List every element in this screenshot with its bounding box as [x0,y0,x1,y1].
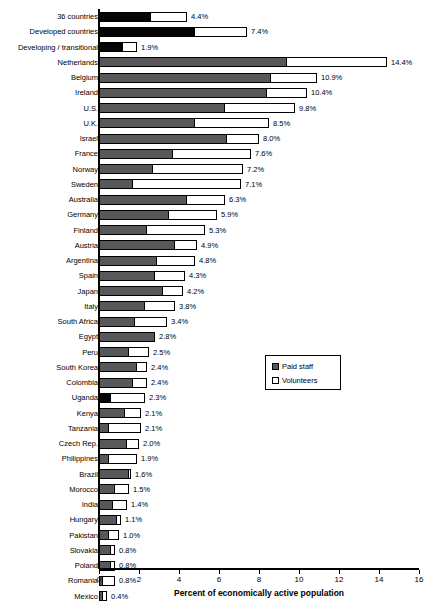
bar-segment-volunteers [110,393,145,403]
row-value-label: 8.5% [273,116,290,131]
bar-segment-paid-staff [99,210,169,220]
bar-segment-paid-staff [99,500,113,510]
row-bar-group [99,271,185,281]
x-tick-label: 8 [244,575,274,585]
bar-segment-volunteers [126,439,139,449]
row-value-label: 4.8% [199,253,216,268]
chart-row: Austria4.9% [0,238,432,253]
bar-segment-volunteers [110,545,115,555]
bar-segment-paid-staff [99,240,175,250]
row-bar-group [99,103,295,113]
row-bar-group [99,301,175,311]
bar-segment-paid-staff [99,225,147,235]
chart-row: Poland0.8% [0,558,432,573]
x-tick [139,570,140,574]
bar-segment-volunteers [152,164,243,174]
row-label: Mexico [0,589,98,604]
bar-segment-paid-staff [99,317,135,327]
bar-segment-volunteers [114,484,129,494]
row-label: Egypt [0,329,98,344]
row-value-label: 2.3% [149,390,166,405]
row-value-label: 1.9% [141,40,158,55]
row-bar-group [99,317,167,327]
row-bar-group [99,347,149,357]
row-bar-group [99,27,247,37]
bar-segment-paid-staff [99,408,125,418]
row-label: Norway [0,162,98,177]
chart-row: Developing / transitional1.9% [0,40,432,55]
chart-row: Slovakia0.8% [0,543,432,558]
row-bar-group [99,88,307,98]
row-label: Netherlands [0,55,98,70]
legend-swatch-volunteers [272,377,279,384]
row-bar-group [99,164,243,174]
bar-segment-volunteers [128,469,131,479]
row-value-label: 2.8% [159,329,176,344]
bar-segment-volunteers [146,225,205,235]
row-label: Pakistan [0,528,98,543]
chart-row: Italy3.8% [0,299,432,314]
x-axis-title: Percent of economically active populatio… [99,588,419,598]
row-label: Sweden [0,177,98,192]
chart-row: U.K.8.5% [0,116,432,131]
bar-segment-paid-staff [99,27,195,37]
chart-row: Pakistan1.0% [0,528,432,543]
bar-segment-volunteers [132,378,147,388]
row-value-label: 2.4% [151,375,168,390]
bar-segment-paid-staff [99,286,163,296]
row-value-label: 4.2% [187,284,204,299]
row-bar-group [99,240,197,250]
bar-segment-volunteers [128,347,149,357]
chart-row: Tanzania2.1% [0,421,432,436]
chart-row: Developed countries7.4% [0,24,432,39]
row-value-label: 9.8% [299,101,316,116]
chart-row: Uganda2.3% [0,390,432,405]
row-value-label: 1.1% [125,512,142,527]
row-value-label: 1.6% [135,467,152,482]
chart-row: Israel8.0% [0,131,432,146]
row-value-label: 7.4% [251,24,268,39]
row-bar-group [99,118,269,128]
row-bar-group [99,195,225,205]
bar-segment-paid-staff [99,256,157,266]
chart-row: 36 countries4.4% [0,9,432,24]
bar-segment-volunteers [186,195,225,205]
bar-segment-volunteers [144,301,175,311]
row-label: Slovakia [0,543,98,558]
row-value-label: 0.8% [119,558,136,573]
row-value-label: 4.9% [201,238,218,253]
row-value-label: 3.4% [171,314,188,329]
bar-segment-volunteers [108,454,137,464]
chart-row: Germany5.9% [0,207,432,222]
x-tick-label: 0 [84,575,114,585]
row-label: Colombia [0,375,98,390]
row-label: Finland [0,223,98,238]
chart-row: South Africa3.4% [0,314,432,329]
row-label: Australia [0,192,98,207]
bar-segment-paid-staff [99,378,133,388]
row-label: Poland [0,558,98,573]
bar-segment-paid-staff [99,179,133,189]
x-tick-label: 4 [164,575,194,585]
row-label: U.S. [0,101,98,116]
row-bar-group [99,73,317,83]
bar-segment-volunteers [108,530,119,540]
row-value-label: 1.4% [131,497,148,512]
row-value-label: 1.5% [133,482,150,497]
bar-segment-volunteers [156,256,195,266]
row-label: Hungary [0,512,98,527]
chart-row: Philippines1.9% [0,451,432,466]
row-label: 36 countries [0,9,98,24]
row-bar-group [99,454,137,464]
row-value-label: 7.2% [247,162,264,177]
row-value-label: 2.0% [143,436,160,451]
stacked-bar-chart: 36 countries4.4%Developed countries7.4%D… [0,0,432,606]
x-tick-label: 12 [324,575,354,585]
bar-segment-volunteers [122,42,137,52]
bar-segment-paid-staff [99,88,267,98]
bar-segment-paid-staff [99,271,155,281]
row-value-label: 1.0% [123,528,140,543]
bar-segment-volunteers [224,103,295,113]
row-bar-group [99,57,387,67]
row-value-label: 10.9% [321,70,342,85]
